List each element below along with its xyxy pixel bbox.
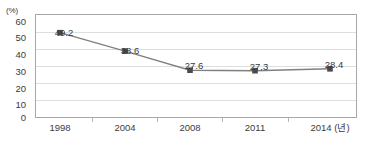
y-tick-label-40: 40	[2, 50, 26, 60]
y-tick-label-0: 0	[2, 113, 26, 123]
gridline-20	[36, 83, 356, 84]
gridline-10	[36, 100, 356, 101]
y-tick-label-30: 30	[2, 67, 26, 77]
data-label-2014: 28.4	[325, 60, 344, 70]
x-tick-label-2008: 2008	[179, 123, 200, 133]
y-tick-label-20: 20	[2, 84, 26, 94]
line-chart-figure: (%) 60 50 40 30 20 10 0 1998 2004 2008 2…	[0, 0, 367, 148]
x-tick-3	[222, 118, 223, 122]
x-tick-label-2004: 2004	[114, 123, 135, 133]
gridline-50	[36, 32, 356, 33]
x-tick-2	[157, 118, 158, 122]
data-label-2004: 38.6	[121, 46, 140, 56]
data-label-1998: 49.2	[55, 28, 74, 38]
x-tick-4	[288, 118, 289, 122]
x-tick-label-2011: 2011	[245, 123, 265, 133]
x-tick-1	[92, 118, 93, 122]
data-label-2011: 27.3	[250, 62, 269, 72]
y-tick-label-10: 10	[2, 100, 26, 110]
y-axis-unit-label: (%)	[6, 6, 18, 15]
y-tick-label-50: 50	[2, 33, 26, 43]
gridline-40	[36, 49, 356, 50]
x-tick-label-1998: 1998	[49, 123, 70, 133]
x-tick-label-2014: 2014 (년)	[310, 123, 349, 133]
y-tick-label-60: 60	[2, 17, 26, 27]
data-label-2008: 27.6	[185, 61, 204, 71]
